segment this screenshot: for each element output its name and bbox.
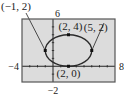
point-label-bottom: (2, 0) bbox=[57, 67, 81, 80]
xmax-label: 8 bbox=[119, 61, 124, 72]
point-marker bbox=[67, 33, 70, 36]
ymin-label: −2 bbox=[48, 85, 59, 96]
point-label-left: (−1, 2) bbox=[1, 0, 31, 13]
point-label-right: (5, 2) bbox=[84, 21, 108, 34]
ymax-label: 6 bbox=[55, 8, 60, 19]
point-marker bbox=[44, 49, 47, 52]
point-marker bbox=[90, 49, 93, 52]
xmin-label: −4 bbox=[8, 61, 19, 72]
ellipse-graph: −4 8 −2 6 (−1, 2) (2, 4) (5, 2) (2, 0) bbox=[0, 0, 124, 98]
point-label-top: (2, 4) bbox=[59, 20, 83, 33]
